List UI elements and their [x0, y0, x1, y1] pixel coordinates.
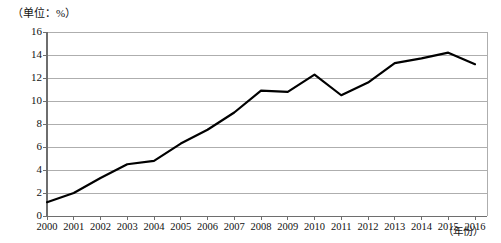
x-tick-label-2012: 2012: [358, 221, 379, 232]
x-tick-label-2009: 2009: [277, 221, 298, 232]
x-tick-label-2008: 2008: [251, 221, 272, 232]
x-tick-label-2002: 2002: [90, 221, 111, 232]
x-tick-label-2014: 2014: [411, 221, 432, 232]
x-tick-label-2006: 2006: [197, 221, 218, 232]
x-tick-label-2007: 2007: [224, 221, 245, 232]
x-axis-tick-labels: 2000200120022003200420052006200720082009…: [0, 0, 501, 243]
x-tick-label-2011: 2011: [331, 221, 352, 232]
x-tick-label-2004: 2004: [144, 221, 165, 232]
x-axis-title: （年份）: [443, 223, 483, 238]
x-tick-label-2005: 2005: [170, 221, 191, 232]
x-tick-label-2003: 2003: [117, 221, 138, 232]
x-tick-label-2010: 2010: [304, 221, 325, 232]
x-tick-label-2001: 2001: [63, 221, 84, 232]
x-tick-label-2000: 2000: [37, 221, 58, 232]
x-tick-label-2013: 2013: [384, 221, 405, 232]
line-chart: （单位：%） 16 14 12 10 8 6 4 2 0 20002001200…: [0, 0, 501, 243]
